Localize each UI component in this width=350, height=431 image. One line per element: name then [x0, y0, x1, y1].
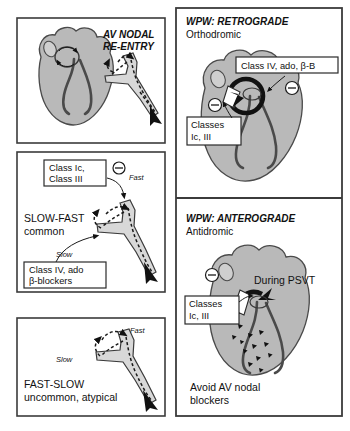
drug-box-bottom-line2: β-blockers: [29, 276, 72, 286]
warning-line2: blockers: [190, 394, 229, 406]
panel4-subheading: Orthodromic: [186, 29, 241, 40]
panel-av-nodal-reentry: AV NODAL RE-ENTRY: [17, 18, 165, 143]
inhibition-symbol-av-node: [286, 82, 299, 95]
panel5-heading: WPW: ANTEROGRADE: [186, 213, 296, 224]
panel-fast-slow: Fast Slow FAST-SLOW uncommon, atypical: [17, 318, 165, 416]
drug-box-line1: Class Ic,: [49, 163, 85, 173]
panel5-subheading: Antidromic: [186, 226, 233, 237]
drug-box-left-line2: Ic, III: [189, 311, 209, 321]
page-footer-text: [6, 421, 344, 430]
drug-box-line2: Class III: [49, 174, 83, 184]
drug-box-left-line1: Classes: [191, 120, 224, 130]
panel2-heading: SLOW-FAST: [24, 212, 85, 224]
panel3-heading: FAST-SLOW: [24, 378, 84, 390]
inhibition-symbol-anterograde: [206, 269, 219, 282]
panel1-heading: AV NODAL: [102, 29, 154, 40]
panel4-heading: WPW: RETROGRADE: [186, 16, 289, 27]
figure-root: AV NODAL RE-ENTRY Class Ic, Class III Fa…: [0, 0, 350, 431]
warning-line1: Avoid AV nodal: [190, 381, 260, 393]
label-fast-pathway: Fast: [130, 326, 146, 335]
drug-box-left-line1: Classes: [189, 299, 222, 309]
inhibition-symbol-accessory: [209, 99, 222, 112]
panel1-heading-line2: RE-ENTRY: [103, 41, 155, 52]
inhibition-symbol-fast: [113, 162, 125, 174]
drug-box-top-text: Class IV, ado, β-B: [241, 61, 315, 71]
panel3-subheading: uncommon, atypical: [24, 391, 117, 403]
diagram-svg: AV NODAL RE-ENTRY Class Ic, Class III Fa…: [0, 0, 350, 431]
label-during-psvt: During PSVT: [254, 274, 316, 286]
panel2-subheading: common: [24, 225, 64, 237]
panel-slow-fast: Class Ic, Class III Fast SLOW-FAST commo…: [17, 152, 165, 292]
drug-box-left-line2: Ic, III: [191, 132, 211, 142]
drug-box-bottom-line1: Class IV, ado: [29, 265, 83, 275]
label-slow-pathway: Slow: [56, 355, 73, 364]
label-fast-pathway: Fast: [129, 173, 145, 182]
